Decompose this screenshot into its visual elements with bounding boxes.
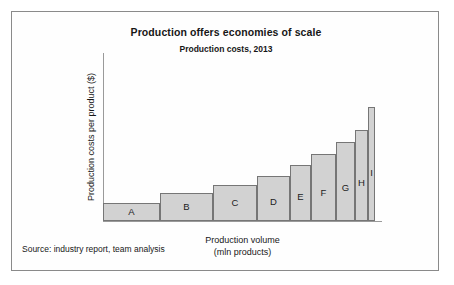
- chart-frame: Production offers economies of scale Pro…: [11, 11, 439, 271]
- bar-i: [368, 107, 375, 221]
- screenshot-root: Production offers economies of scale Pro…: [0, 0, 454, 285]
- y-axis-line: [103, 53, 104, 222]
- y-axis-title: Production costs per product ($): [86, 52, 96, 222]
- bar-label-c: C: [215, 197, 255, 208]
- plot-area: Production costs per product ($) ABCDEFG…: [12, 12, 440, 272]
- bar-label-i: I: [352, 167, 392, 178]
- x-axis-line: [103, 221, 382, 222]
- source-note: Source: industry report, team analysis: [22, 244, 165, 254]
- bar-label-b: B: [167, 201, 207, 212]
- bar-label-h: H: [342, 177, 382, 188]
- bar-label-a: A: [112, 206, 152, 217]
